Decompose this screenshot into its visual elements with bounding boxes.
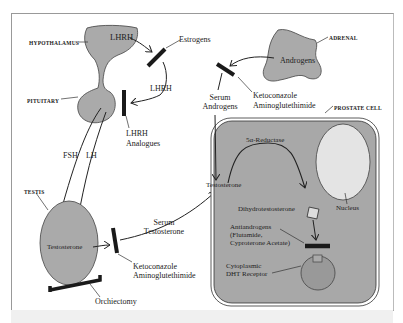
label-adrenal: ADRENAL (329, 34, 358, 43)
label-5a-reductase: 5α-Reductase (246, 136, 284, 145)
label-prostate-cell: PROSTATE CELL (334, 104, 382, 113)
label-serum-androgens-1: Serum (202, 93, 238, 102)
label-lhrh-analogues-1: LHRH (126, 129, 148, 138)
label-orchiectomy: Orchiectomy (95, 297, 137, 306)
label-receptor-2: DHT Receptor (226, 270, 267, 278)
label-testosterone-cell: Testosterone (206, 181, 241, 190)
label-keto-adrenal-2: Aminoglutethimide (253, 101, 316, 110)
label-lhrh-top: LHRH (110, 33, 133, 42)
label-androgens: Androgens (280, 56, 315, 65)
label-hypothalamus: HYPOTHALAMUS (29, 39, 79, 48)
label-estrogens: Estrogens (179, 35, 211, 44)
label-keto-testis-1: Ketoconazole (133, 262, 177, 271)
adrenal-keto-blocker (217, 64, 234, 75)
label-testosterone-testis: Testosterone (47, 243, 82, 252)
label-antiandrogens-2: (Flutamide, (230, 231, 262, 239)
label-antiandrogens-3: Cyproterone Acetate) (230, 239, 290, 247)
label-lhrh-mid: LHRH (150, 84, 172, 93)
label-fsh: FSH (63, 151, 78, 160)
label-nucleus: Nucleus (336, 204, 359, 213)
label-serum-androgens-2: Androgens (200, 102, 240, 111)
nucleus (316, 124, 370, 200)
label-testis: TESTIS (24, 188, 44, 197)
label-serum-testosterone-1: Serum (143, 218, 185, 227)
label-dht: Dihydrotestosterone (238, 205, 295, 214)
label-antiandrogens-1: Antiandrogens (230, 223, 271, 231)
diagram-graphics (0, 0, 403, 323)
label-pituitary: PITUITARY (27, 97, 59, 106)
testis-keto-blocker (113, 228, 117, 253)
label-serum-testosterone-2: Testosterone (135, 227, 193, 236)
dht-square (307, 207, 319, 219)
label-receptor-1: Cytoplasmic (226, 262, 261, 270)
label-lhrh-analogues-2: Analogues (126, 139, 160, 148)
label-keto-adrenal-1: Ketoconazole (253, 91, 297, 100)
label-keto-testis-2: Aminoglutethimide (133, 271, 196, 280)
label-lh: LH (86, 151, 97, 160)
